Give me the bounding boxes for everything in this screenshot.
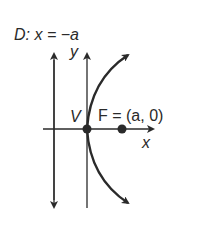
x-axis-label: x — [141, 134, 151, 151]
focus-label: F = (a, 0) — [98, 107, 163, 124]
directrix-label: D: x = −a — [14, 26, 79, 43]
focus-point — [118, 125, 127, 134]
vertex-label: V — [70, 108, 82, 125]
parabola-diagram: D: x = −a y V F = (a, 0) x — [0, 0, 206, 227]
y-axis-label: y — [69, 43, 79, 60]
vertex-point — [83, 125, 92, 134]
parabola-lower-branch — [87, 129, 128, 203]
